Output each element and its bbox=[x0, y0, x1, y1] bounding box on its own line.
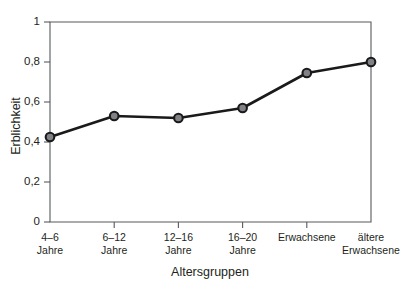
data-point-2 bbox=[110, 112, 119, 121]
x-tick-label-2-line1: 6–12 bbox=[103, 231, 127, 243]
data-point-1 bbox=[46, 133, 55, 142]
y-tick-label-1: 1 bbox=[34, 15, 40, 27]
x-tick-label-3-line1: 12–16 bbox=[164, 231, 193, 243]
y-tick-label-0-2: 0,2 bbox=[24, 175, 40, 187]
y-axis-title: Erblichkeit bbox=[9, 97, 23, 155]
x-tick-label-4-line1: 16–20 bbox=[228, 231, 257, 243]
x-tick-label-1-line1: 4–6 bbox=[41, 231, 59, 243]
x-tick-label-3-line2: Jahre bbox=[165, 244, 191, 256]
data-point-6 bbox=[367, 58, 376, 67]
data-point-5 bbox=[303, 69, 312, 78]
x-axis-title: Altersgruppen bbox=[171, 265, 249, 279]
chart-figure: 1 0,8 0,6 0,4 0,2 0 4–6 Jahre 6–12 Jahre… bbox=[0, 0, 404, 290]
x-tick-label-2-line2: Jahre bbox=[101, 244, 127, 256]
x-tick-label-1-line2: Jahre bbox=[37, 244, 63, 256]
y-tick-label-0-4: 0,4 bbox=[24, 135, 41, 147]
data-point-3 bbox=[174, 114, 183, 123]
y-tick-label-0: 0 bbox=[34, 215, 40, 227]
y-tick-label-0-6: 0,6 bbox=[24, 95, 40, 107]
y-tick-label-0-8: 0,8 bbox=[24, 55, 40, 67]
data-point-4 bbox=[238, 104, 247, 113]
x-tick-label-4-line2: Jahre bbox=[229, 244, 255, 256]
x-tick-label-6-line1: ältere bbox=[358, 231, 384, 243]
x-tick-label-6-line2: Erwachsene bbox=[342, 244, 400, 256]
heritability-line-chart: 1 0,8 0,6 0,4 0,2 0 4–6 Jahre 6–12 Jahre… bbox=[0, 0, 404, 290]
x-tick-label-5-line1: Erwachsene bbox=[278, 231, 336, 243]
